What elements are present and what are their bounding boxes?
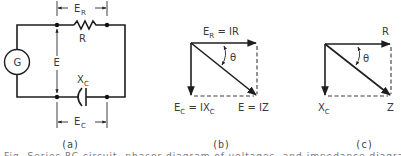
node-top-right — [105, 23, 109, 27]
er-label-sub: R — [81, 9, 86, 17]
ec-label: E — [74, 116, 80, 127]
capacitor-label-sub: C — [84, 80, 89, 88]
left-top-wire — [17, 25, 74, 50]
e-iz-label: E = IZ — [238, 102, 269, 113]
ec-ixc-label: EC = IXC — [174, 102, 215, 116]
generator-label: G — [14, 57, 22, 68]
panel-a-circuit: G E R X C E R E C (a) — [5, 1, 126, 150]
right-wire — [107, 25, 125, 97]
er-ir-label: ER = IR — [203, 26, 239, 40]
rc-circuit-figure: G E R X C E R E C (a) — [0, 0, 401, 156]
theta-arc-icon — [222, 46, 226, 65]
resistor-label: R — [79, 33, 86, 44]
caption-b: (b) — [212, 139, 230, 150]
capacitor-label: X — [77, 74, 84, 85]
e-vector — [191, 43, 256, 95]
panel-c-impedance: θ R XC Z (c) — [318, 26, 394, 150]
z-label: Z — [387, 102, 394, 113]
caption-c: (c) — [355, 139, 373, 150]
e-voltage-label: E — [54, 57, 60, 68]
theta-label-c: θ — [363, 53, 369, 64]
z-vector — [325, 44, 390, 95]
ec-label-sub: C — [81, 122, 86, 130]
caption-a: (a) — [61, 139, 79, 150]
r-label: R — [382, 26, 389, 37]
theta-arc-icon-c — [356, 47, 360, 65]
node-bottom-right — [105, 95, 109, 99]
er-label: E — [74, 3, 80, 14]
node-top-left — [55, 23, 59, 27]
clipped-caption-line: Fig. Series RC circuit, phasor diagram o… — [0, 151, 401, 156]
panel-b-phasor: θ ER = IR EC = IXC E = IZ (b) — [174, 26, 269, 150]
resistor-icon — [74, 21, 107, 29]
capacitor-icon — [78, 88, 107, 106]
xc-label: XC — [318, 102, 330, 116]
bottom-left-wire — [17, 74, 78, 97]
node-bottom-left — [55, 95, 59, 99]
theta-label-b: θ — [230, 52, 236, 63]
